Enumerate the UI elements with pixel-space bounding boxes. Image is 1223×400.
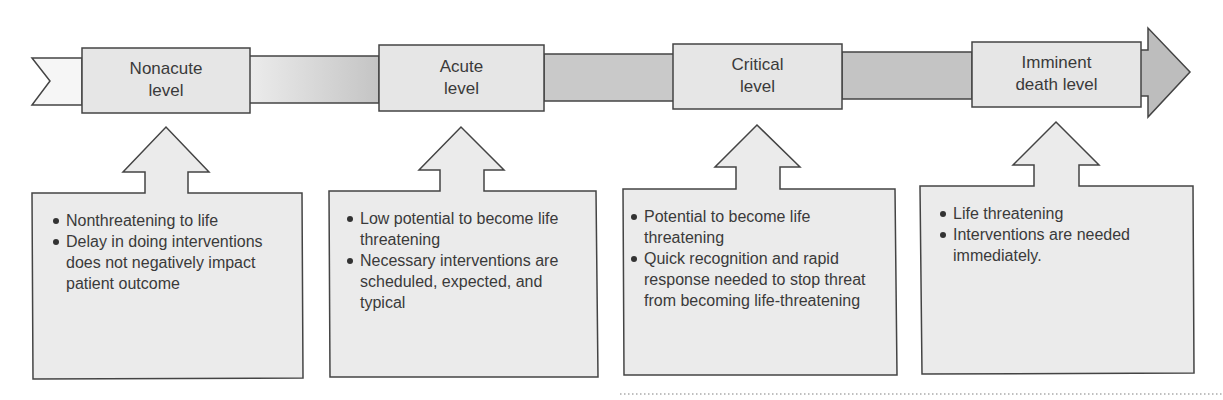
level-label-line: death level [972, 74, 1141, 96]
continuum-band-3 [842, 52, 972, 99]
level-label-imminent: Imminent death level [972, 52, 1141, 96]
bullet-item: Quick recognition and rapid response nee… [630, 248, 889, 311]
level-label-acute: Acute level [379, 56, 544, 100]
level-label-line: level [82, 80, 250, 102]
bullet-item: Life threatening [939, 203, 1179, 224]
level-label-critical: Critical level [673, 54, 842, 98]
continuum-band-2 [544, 54, 674, 101]
level-label-line: level [379, 78, 544, 100]
continuum-band-1 [249, 56, 379, 103]
level-label-line: Nonacute [82, 58, 250, 80]
bullet-item: Low potential to become life threatening [346, 208, 580, 250]
desc-text-imminent: Life threatening Interventions are neede… [939, 203, 1179, 266]
desc-text-nonacute: Nonthreatening to life Delay in doing in… [52, 210, 292, 294]
level-label-line: Acute [379, 56, 544, 78]
level-label-line: Critical [673, 54, 842, 76]
level-label-line: Imminent [972, 52, 1141, 74]
bullet-item: Nonthreatening to life [52, 210, 292, 231]
level-label-line: level [673, 76, 842, 98]
desc-text-acute: Low potential to become life threatening… [346, 208, 586, 313]
desc-text-critical: Potential to become life threatening Qui… [630, 206, 885, 311]
arrow-head [1140, 28, 1190, 117]
bullet-item: Necessary interventions are scheduled, e… [346, 250, 575, 313]
arrow-tail-notch [32, 58, 82, 105]
bullet-item: Potential to become life threatening [630, 206, 814, 248]
bullet-item: Interventions are needed immediately. [939, 224, 1138, 266]
bullet-item: Delay in doing interventions does not ne… [52, 231, 266, 294]
level-label-nonacute: Nonacute level [82, 58, 250, 102]
